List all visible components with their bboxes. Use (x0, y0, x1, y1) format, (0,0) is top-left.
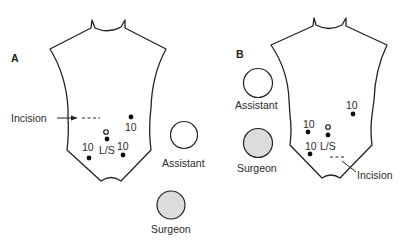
port-dot-icon (121, 153, 126, 158)
surgeon-position-icon (157, 191, 185, 219)
incision-label-a: Incision (11, 112, 47, 124)
port-label: 10 (305, 140, 317, 152)
laparoscope-open-dot-icon (326, 125, 331, 130)
port-label: 10 (125, 121, 137, 133)
port-dot-icon (129, 115, 134, 120)
panel-a-label: A (11, 52, 19, 64)
panel-a: A Incision 10 L/S 10 10 Assistant Surgeo… (11, 20, 205, 235)
incision-label-b: Incision (357, 169, 393, 181)
arrowhead-icon (71, 116, 78, 121)
port-label: 10 (82, 141, 94, 153)
port-dot-icon (306, 130, 311, 135)
assistant-label-a: Assistant (162, 157, 205, 169)
port-dot-icon (351, 112, 356, 117)
panel-b-label: B (236, 48, 244, 60)
surgeon-position-icon (244, 129, 273, 158)
torso-a-outline (50, 20, 166, 181)
laparoscope-open-dot-icon (104, 130, 109, 135)
incision-pointer-b (342, 161, 356, 172)
port-label: 10 (346, 99, 358, 111)
port-dot-icon (308, 152, 313, 157)
port-dot-icon (326, 133, 331, 138)
surgeon-label-a: Surgeon (151, 223, 191, 235)
laparoscope-label: L/S (320, 140, 336, 152)
assistant-position-icon (244, 69, 273, 98)
panel-b: B Assistant Surgeon 10 10 L/S 10 Incisio… (235, 18, 393, 181)
port-label: 10 (117, 140, 129, 152)
surgeon-label-b: Surgeon (237, 162, 277, 174)
laparoscope-label: L/S (99, 144, 115, 156)
port-placement-diagram: A Incision 10 L/S 10 10 Assistant Surgeo… (0, 0, 402, 247)
assistant-label-b: Assistant (235, 99, 278, 111)
torso-b-outline (271, 18, 387, 178)
port-label: 10 (303, 118, 315, 130)
assistant-position-icon (171, 122, 198, 149)
port-dot-icon (105, 137, 110, 142)
port-dot-icon (87, 156, 92, 161)
